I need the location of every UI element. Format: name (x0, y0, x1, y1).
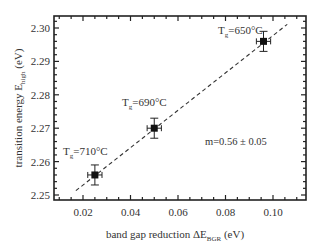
y-tick-labels: 2.252.262.272.282.292.30 (31, 22, 51, 201)
x-tick-label: 0.02 (73, 206, 92, 218)
data-point (147, 118, 161, 138)
x-tick-labels: 0.020.040.060.080.10 (73, 206, 283, 218)
fit-line (76, 24, 287, 190)
annotation-690: Tg=690°C (122, 96, 167, 111)
chart: 0.020.040.060.080.10 2.252.262.272.282.2… (0, 0, 320, 247)
y-tick-label: 2.25 (31, 189, 51, 201)
annotation-650: Tg=650°C (218, 24, 263, 39)
x-tick-label: 0.08 (216, 206, 236, 218)
y-tick-label: 2.30 (31, 22, 51, 34)
y-axis-label: transition energy Ehigh (eV) (12, 48, 27, 167)
square-marker (260, 38, 267, 45)
x-tick-label: 0.04 (121, 206, 141, 218)
square-marker (91, 171, 98, 178)
annotation-710: Tg=710°C (63, 145, 108, 160)
x-axis-label: band gap reduction ΔEBGR (eV) (106, 228, 245, 243)
data-point (88, 165, 102, 185)
x-tick-label: 0.10 (263, 206, 283, 218)
slope-annotation: m=0.56 ± 0.05 (205, 136, 267, 147)
y-tick-label: 2.26 (31, 156, 51, 168)
y-tick-label: 2.27 (31, 122, 51, 134)
square-marker (151, 125, 158, 132)
y-tick-label: 2.29 (31, 55, 51, 67)
fit-line-path (76, 24, 287, 190)
y-tick-label: 2.28 (31, 89, 51, 101)
data-points (88, 31, 271, 185)
x-tick-label: 0.06 (168, 206, 188, 218)
